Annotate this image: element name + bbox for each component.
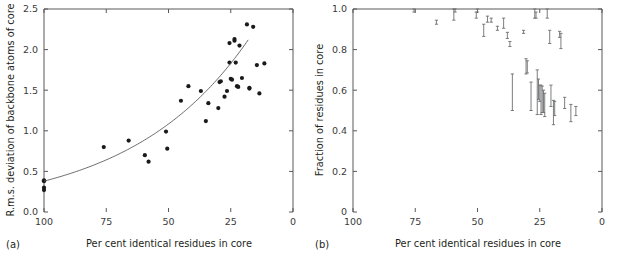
- panel-a-frame: [44, 9, 293, 212]
- data-point: [146, 160, 150, 164]
- data-point: [232, 39, 236, 43]
- panel-a-y-axis-label: R.m.s. deviation of backbone atoms of co…: [5, 4, 16, 217]
- panel-b-ticks: [353, 9, 602, 212]
- y-tick-label: 0.0: [23, 206, 38, 217]
- panel-a-tick-labels: 10075502500.00.51.01.52.02.5: [23, 3, 296, 227]
- x-tick-label: 25: [225, 216, 237, 227]
- data-point: [42, 188, 46, 192]
- panel-a-plot: 10075502500.00.51.01.52.02.5 Per cent id…: [0, 0, 309, 261]
- y-tick-label: 0.6: [332, 85, 347, 96]
- data-point: [164, 130, 168, 134]
- panel-b-error-bars: [412, 9, 577, 125]
- data-point: [262, 61, 266, 65]
- panel-a-data-points: [42, 22, 267, 192]
- panel-b-frame: [353, 9, 602, 212]
- panel-b-y-axis-label: Fraction of residues in core: [314, 44, 325, 176]
- y-tick-label: 1.0: [23, 125, 38, 136]
- x-tick-label: 75: [100, 216, 112, 227]
- panel-b: 100755025000.20.40.60.81.0 Per cent iden…: [309, 0, 618, 261]
- panel-b-axes: [353, 9, 602, 212]
- data-point: [102, 145, 106, 149]
- panel-a-fit-curve: [44, 40, 248, 181]
- data-point: [236, 85, 240, 89]
- y-tick-label: 0.4: [332, 125, 347, 136]
- data-point: [234, 60, 238, 64]
- data-point: [206, 101, 210, 105]
- panel-a-axes: [44, 9, 293, 212]
- panel-a: 10075502500.00.51.01.52.02.5 Per cent id…: [0, 0, 309, 261]
- data-point: [222, 95, 226, 99]
- data-point: [257, 91, 261, 95]
- x-tick-label: 25: [534, 216, 546, 227]
- data-point: [165, 147, 169, 151]
- y-tick-label: 0.5: [23, 166, 38, 177]
- data-point: [230, 78, 234, 82]
- x-tick-label: 50: [162, 216, 174, 227]
- y-tick-label: 0.8: [332, 44, 347, 55]
- data-point: [255, 63, 259, 67]
- data-point: [247, 86, 251, 90]
- data-point: [127, 138, 131, 142]
- data-point: [251, 25, 255, 29]
- data-point: [143, 153, 147, 157]
- y-tick-label: 0.2: [332, 166, 347, 177]
- panel-a-tag: (a): [6, 239, 20, 250]
- data-point: [225, 89, 229, 93]
- panel-b-tick-labels: 100755025000.20.40.60.81.0: [332, 3, 605, 227]
- panel-a-ticks: [44, 9, 293, 212]
- data-point: [237, 43, 241, 47]
- data-point: [227, 41, 231, 45]
- data-point: [199, 89, 203, 93]
- panel-b-plot: 100755025000.20.40.60.81.0 Per cent iden…: [309, 0, 618, 261]
- x-tick-label: 100: [35, 216, 53, 227]
- x-tick-label: 75: [409, 216, 421, 227]
- figure-container: 10075502500.00.51.01.52.02.5 Per cent id…: [0, 0, 618, 261]
- x-tick-label: 100: [344, 216, 362, 227]
- data-point: [245, 22, 249, 26]
- data-point: [204, 119, 208, 123]
- y-tick-label: 2.0: [23, 44, 38, 55]
- panel-a-x-axis-label: Per cent identical residues in core: [86, 238, 252, 249]
- y-tick-label: 1.5: [23, 85, 38, 96]
- y-tick-label: 1.0: [332, 3, 347, 14]
- data-point: [216, 106, 220, 110]
- panel-b-x-axis-label: Per cent identical residues in core: [395, 238, 561, 249]
- x-tick-label: 50: [471, 216, 483, 227]
- x-tick-label: 0: [599, 216, 605, 227]
- x-tick-label: 0: [290, 216, 296, 227]
- y-tick-label: 2.5: [23, 3, 38, 14]
- data-point: [240, 76, 244, 80]
- data-point: [179, 99, 183, 103]
- data-point: [219, 79, 223, 83]
- panel-b-tag: (b): [315, 239, 329, 250]
- data-point: [186, 84, 190, 88]
- y-tick-label: 0: [341, 206, 347, 217]
